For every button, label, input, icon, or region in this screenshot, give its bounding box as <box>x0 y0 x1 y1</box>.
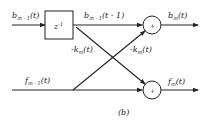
b-delayed-label: bm - 1(t - 1) <box>84 11 124 21</box>
lattice-filter-diagram: z-1 + + bm - 1(t) bm - 1(t - 1) bm(t) fm… <box>0 0 212 124</box>
f-to-top-adder-line <box>73 31 145 90</box>
figure-caption: (b) <box>118 108 129 117</box>
k-left-label: -km(t) <box>71 45 93 55</box>
b-to-bottom-adder-line <box>76 27 145 84</box>
b-in-label: bm - 1(t) <box>12 11 39 21</box>
svg-text:+: + <box>150 22 155 29</box>
f-out-label: fm(t) <box>167 77 185 87</box>
f-in-label: fm - 1(t) <box>24 76 50 86</box>
svg-text:+: + <box>150 87 155 94</box>
b-out-label: bm(t) <box>168 11 187 21</box>
k-right-label: -km(t) <box>130 45 152 55</box>
